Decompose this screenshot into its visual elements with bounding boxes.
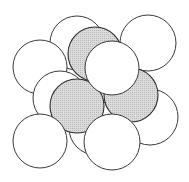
sphere-front-center [85,41,139,95]
spheres-group [13,15,178,170]
sphere-packing-diagram [0,0,189,182]
sphere-front-bottom-left [13,114,67,168]
sphere-front-bottom-center [84,114,140,170]
